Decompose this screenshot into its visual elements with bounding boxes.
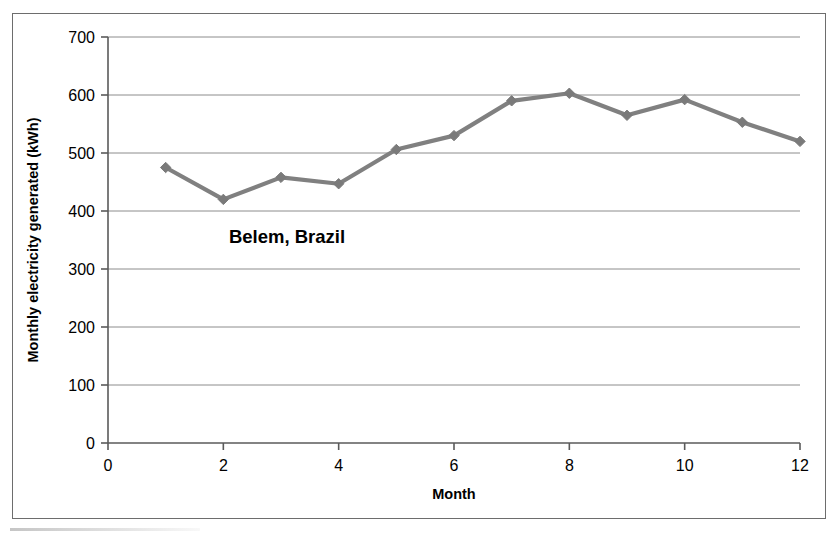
x-tick-label: 0 [104, 457, 113, 474]
y-tick-label: 600 [68, 87, 95, 104]
y-tick-label: 200 [68, 319, 95, 336]
y-tick-label: 100 [68, 377, 95, 394]
x-tick-label: 8 [565, 457, 574, 474]
y-axis-title: Monthly electricity generated (kWh) [25, 117, 41, 362]
data-point-marker [622, 110, 632, 120]
x-tick-label: 10 [676, 457, 694, 474]
y-tick-label: 400 [68, 203, 95, 220]
chart-container: 0100200300400500600700024681012MonthMont… [0, 0, 829, 540]
chart-annotation-label: Belem, Brazil [229, 226, 345, 247]
x-axis-title: Month [432, 486, 475, 502]
line-chart: 0100200300400500600700024681012MonthMont… [0, 0, 829, 540]
x-tick-label: 6 [450, 457, 459, 474]
x-tick-label: 4 [334, 457, 343, 474]
data-point-marker [564, 88, 574, 98]
y-tick-label: 300 [68, 261, 95, 278]
y-tick-label: 500 [68, 145, 95, 162]
x-tick-label: 12 [791, 457, 809, 474]
y-tick-label: 700 [68, 29, 95, 46]
data-line-belem-brazil [166, 93, 800, 199]
x-tick-label: 2 [219, 457, 228, 474]
data-point-marker [795, 136, 805, 146]
data-point-marker [276, 172, 286, 182]
y-tick-label: 0 [86, 435, 95, 452]
